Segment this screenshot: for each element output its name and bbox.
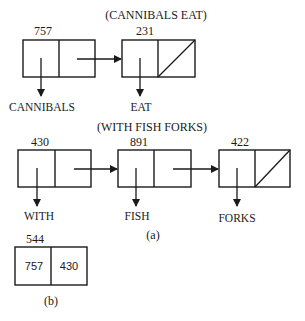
cdr-value: 430	[60, 260, 78, 272]
car-label: FISH	[125, 210, 150, 222]
cell-address: 891	[130, 135, 148, 149]
list2-title: (WITH FISH FORKS)	[97, 120, 207, 134]
cons-cell-diagram: (CANNIBALS EAT) 757 CANNIBALS 231 EAT (W…	[0, 0, 305, 321]
cell-address: 422	[231, 135, 249, 149]
cons-cell-430: 430 WITH	[18, 135, 117, 222]
nil-slash-icon	[255, 150, 290, 187]
cell-address: 231	[136, 24, 154, 38]
cons-cell-891: 891 FISH	[118, 135, 218, 222]
car-label: EAT	[130, 101, 151, 113]
car-value: 757	[25, 260, 43, 272]
caption-b: (b)	[44, 294, 58, 308]
nil-slash-icon	[158, 40, 195, 77]
car-label: CANNIBALS	[9, 101, 75, 113]
caption-a: (a)	[146, 228, 159, 242]
car-label: FORKS	[218, 212, 255, 224]
cons-cell-757: 757 CANNIBALS	[9, 24, 121, 113]
cons-cell-544: 544 757 430	[15, 232, 87, 285]
cons-cell-231: 231 EAT	[122, 24, 195, 113]
cell-address: 757	[34, 24, 52, 38]
cons-cell-422: 422 FORKS	[218, 135, 290, 224]
list1-title: (CANNIBALS EAT)	[105, 8, 207, 22]
cell-address: 430	[31, 135, 49, 149]
car-label: WITH	[24, 210, 54, 222]
cell-address: 544	[26, 232, 44, 246]
